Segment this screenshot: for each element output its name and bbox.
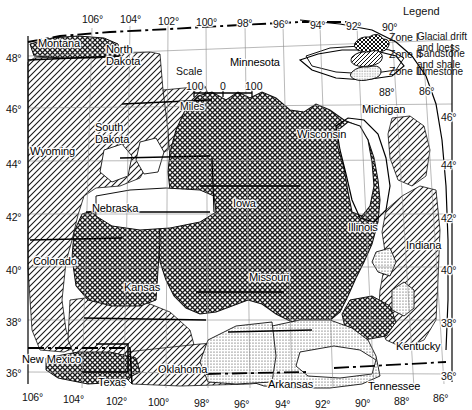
latitude-tick-right-3: 40° [441, 265, 456, 276]
longitude-tick-bottom-4: 98° [194, 398, 209, 409]
latitude-tick-left-4: 40° [6, 265, 21, 276]
state-label-wisconsin: Wisconsin [297, 129, 346, 140]
state-label-nebraska: Nebraska [92, 203, 138, 214]
latitude-tick-left-0: 48° [6, 53, 21, 64]
latitude-tick-left-3: 42° [6, 212, 21, 223]
scale-tick-center: 0 [220, 81, 226, 92]
longitude-tick-bottom-3: 100° [148, 397, 169, 408]
longitude-tick-top-0: 106° [82, 14, 103, 25]
longitude-tick-inset-1: 86° [419, 86, 434, 97]
scale-unit-label: Miles [180, 101, 205, 112]
legend-desc-3: Limestone [417, 66, 463, 77]
longitude-tick-top-7: 92° [346, 21, 361, 32]
state-label-colorado: Colorado [33, 256, 77, 267]
longitude-tick-inset-0: 88° [379, 87, 394, 98]
longitude-tick-top-2: 102° [158, 16, 179, 27]
latitude-tick-right-4: 38° [441, 318, 456, 329]
scale-tick-left: 100 [186, 81, 204, 92]
state-label-kentucky: Kentucky [396, 341, 440, 352]
zone2-michigan [388, 116, 430, 186]
legend-swatch-zone1 [354, 34, 389, 52]
state-label-wyoming: Wyoming [30, 146, 75, 157]
longitude-tick-bottom-1: 104° [63, 394, 84, 405]
longitude-tick-top-3: 100° [196, 17, 217, 28]
state-label-south-dakota: South Dakota [95, 122, 129, 145]
state-label-oklahoma: Oklahoma [158, 364, 207, 375]
state-label-kansas: Kansas [124, 282, 160, 293]
state-label-north-dakota: North Dakota [106, 44, 140, 67]
scale-tick-right: 100 [245, 81, 263, 92]
latitude-tick-left-5: 38° [6, 317, 21, 328]
longitude-tick-bottom-0: 106° [22, 392, 43, 403]
latitude-tick-right-5: 36° [441, 371, 456, 382]
longitude-tick-bottom-6: 94° [275, 399, 290, 410]
longitude-tick-bottom-10: 86° [433, 393, 448, 404]
legend-title: Legend [403, 6, 440, 17]
state-label-missouri: Missouri [249, 272, 289, 283]
state-label-minnesota: Minnesota [230, 57, 280, 68]
latitude-tick-right-1: 44° [441, 160, 456, 171]
longitude-tick-bottom-8: 90° [355, 398, 370, 409]
latitude-tick-right-2: 42° [441, 213, 456, 224]
state-label-texas: Texas [98, 377, 126, 388]
legend-zone-label-1: Zone I [389, 32, 419, 43]
state-label-indiana: Indiana [406, 240, 441, 251]
longitude-tick-top-5: 96° [273, 19, 288, 30]
state-label-illinois: Illinois [348, 222, 378, 233]
longitude-tick-top-1: 104° [120, 14, 141, 25]
map-figure: 106°104°102°100°98°96°94°92°90° 88°86° 1… [0, 0, 472, 410]
basin-wyoming-a [100, 144, 132, 182]
state-label-arkansas: Arkansas [268, 379, 313, 390]
longitude-tick-bottom-5: 96° [234, 399, 249, 410]
state-label-montana: Montana [38, 38, 80, 49]
state-label-michigan: Michigan [362, 104, 405, 115]
state-label-iowa: Iowa [233, 198, 256, 209]
latitude-tick-right-0: 46° [441, 112, 456, 123]
scale-title: Scale [176, 66, 202, 77]
longitude-tick-top-6: 94° [310, 20, 325, 31]
longitude-tick-top-4: 98° [237, 18, 252, 29]
latitude-tick-left-1: 46° [6, 104, 21, 115]
longitude-tick-bottom-2: 102° [106, 396, 127, 407]
longitude-tick-bottom-7: 92° [315, 399, 330, 410]
longitude-tick-bottom-9: 88° [394, 396, 409, 407]
latitude-tick-left-2: 44° [6, 159, 21, 170]
latitude-tick-left-6: 36° [6, 368, 21, 379]
state-label-tennessee: Tennessee [368, 381, 420, 392]
state-label-new-mexico: New Mexico [22, 354, 81, 365]
